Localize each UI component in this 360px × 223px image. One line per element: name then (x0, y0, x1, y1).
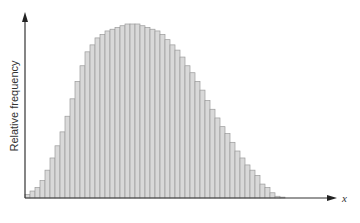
histogram-bar (40, 181, 45, 198)
histogram-bar (55, 146, 60, 198)
histogram-bar (180, 57, 185, 198)
histogram-bars (25, 24, 285, 198)
histogram-bar (85, 52, 90, 198)
histogram-bar (165, 40, 170, 198)
histogram-bar (185, 66, 190, 198)
histogram-bar (105, 31, 110, 198)
histogram-bar (245, 165, 250, 198)
x-axis-label: x (342, 192, 347, 204)
histogram-bar (125, 24, 130, 198)
histogram-bar (255, 175, 260, 198)
histogram-bar (205, 101, 210, 198)
histogram-bar (145, 27, 150, 198)
histogram-bar (190, 73, 195, 198)
histogram-bar (65, 116, 70, 198)
histogram-bar (60, 132, 65, 198)
y-axis-label: Relative frequency (8, 60, 20, 151)
histogram-bar (175, 50, 180, 198)
histogram-bar (195, 81, 200, 198)
histogram-bar (50, 158, 55, 198)
histogram-bar (135, 24, 140, 198)
histogram-bar (140, 26, 145, 198)
histogram-bar (120, 26, 125, 198)
histogram-bar (270, 193, 275, 198)
histogram-chart: Relative frequency x (0, 0, 360, 223)
histogram-bar (45, 170, 50, 198)
histogram-bar (160, 34, 165, 198)
histogram-bar (70, 99, 75, 198)
histogram-bar (130, 24, 135, 198)
histogram-bar (90, 45, 95, 198)
x-axis-arrow-icon (327, 195, 337, 201)
histogram-bar (95, 38, 100, 198)
histogram-bar (230, 142, 235, 198)
histogram-bar (260, 184, 265, 198)
histogram-bar (80, 66, 85, 198)
histogram-bar (210, 109, 215, 198)
histogram-bar (235, 151, 240, 198)
histogram-bar (200, 90, 205, 198)
histogram-bar (170, 45, 175, 198)
y-axis-arrow-icon (22, 12, 28, 22)
histogram-bar (215, 118, 220, 198)
histogram-bar (115, 27, 120, 198)
histogram-bar (240, 158, 245, 198)
histogram-bar (35, 188, 40, 198)
histogram-bar (150, 29, 155, 198)
histogram-bar (265, 188, 270, 198)
histogram-bar (75, 81, 80, 198)
histogram-bar (100, 34, 105, 198)
chart-plot-area (0, 0, 360, 223)
histogram-bar (220, 127, 225, 198)
histogram-bar (30, 191, 35, 198)
histogram-bar (250, 170, 255, 198)
histogram-bar (155, 31, 160, 198)
histogram-bar (110, 29, 115, 198)
histogram-bar (225, 134, 230, 198)
